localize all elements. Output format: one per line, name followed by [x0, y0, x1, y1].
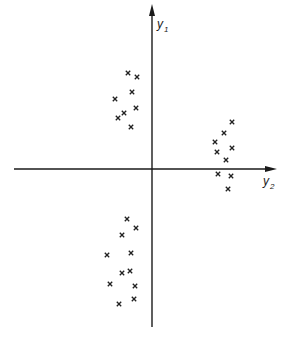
horizontal-axis [14, 166, 277, 172]
x-marker-icon [129, 251, 133, 255]
series-cluster-lower [105, 217, 138, 306]
x-marker-icon [120, 271, 124, 275]
x-marker-icon [133, 284, 137, 288]
y1-axis-label: y1 [156, 17, 168, 34]
x-marker-icon [120, 233, 124, 237]
x-marker-icon [230, 120, 234, 124]
x-marker-icon [135, 75, 139, 79]
x-marker-icon [129, 125, 133, 129]
data-points [105, 71, 234, 306]
x-marker-icon [128, 269, 132, 273]
x-marker-icon [229, 174, 233, 178]
x-marker-icon [134, 106, 138, 110]
x-marker-icon [230, 146, 234, 150]
y2-axis-label: y2 [262, 174, 275, 191]
x-marker-icon [226, 187, 230, 191]
scatter-diagram: y1 y2 [0, 0, 297, 338]
x-marker-icon [222, 131, 226, 135]
arrow-right-icon [265, 166, 277, 172]
x-marker-icon [213, 140, 217, 144]
series-cluster-upper-left [113, 71, 139, 129]
x-marker-icon [125, 217, 129, 221]
x-marker-icon [134, 226, 138, 230]
x-marker-icon [116, 116, 120, 120]
x-marker-icon [126, 71, 130, 75]
x-marker-icon [216, 172, 220, 176]
x-marker-icon [224, 158, 228, 162]
series-cluster-right [213, 120, 234, 191]
vertical-axis [149, 4, 155, 327]
x-marker-icon [215, 150, 219, 154]
arrow-up-icon [149, 4, 155, 16]
x-marker-icon [117, 302, 121, 306]
x-marker-icon [130, 90, 134, 94]
x-marker-icon [132, 297, 136, 301]
x-marker-icon [113, 97, 117, 101]
x-marker-icon [108, 282, 112, 286]
x-marker-icon [122, 111, 126, 115]
x-marker-icon [105, 253, 109, 257]
